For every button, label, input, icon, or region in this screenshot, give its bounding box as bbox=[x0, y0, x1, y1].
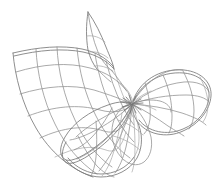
wireframe-figure: Wireframe mesh of a three-lobed singular… bbox=[0, 0, 221, 190]
surface-wireframe-canvas bbox=[0, 0, 221, 190]
